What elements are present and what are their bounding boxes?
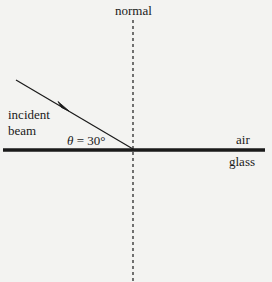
angle-label: θ = 30° xyxy=(67,133,105,148)
angle-value: = 30° xyxy=(73,133,105,148)
refraction-diagram: normal incident beam θ = 30° air glass xyxy=(0,0,272,282)
diagram-graphics xyxy=(0,0,272,282)
air-label: air xyxy=(236,132,250,147)
normal-label: normal xyxy=(115,3,152,18)
incident-label: incident xyxy=(8,107,50,122)
beam-label: beam xyxy=(8,123,36,138)
glass-label: glass xyxy=(229,154,255,169)
